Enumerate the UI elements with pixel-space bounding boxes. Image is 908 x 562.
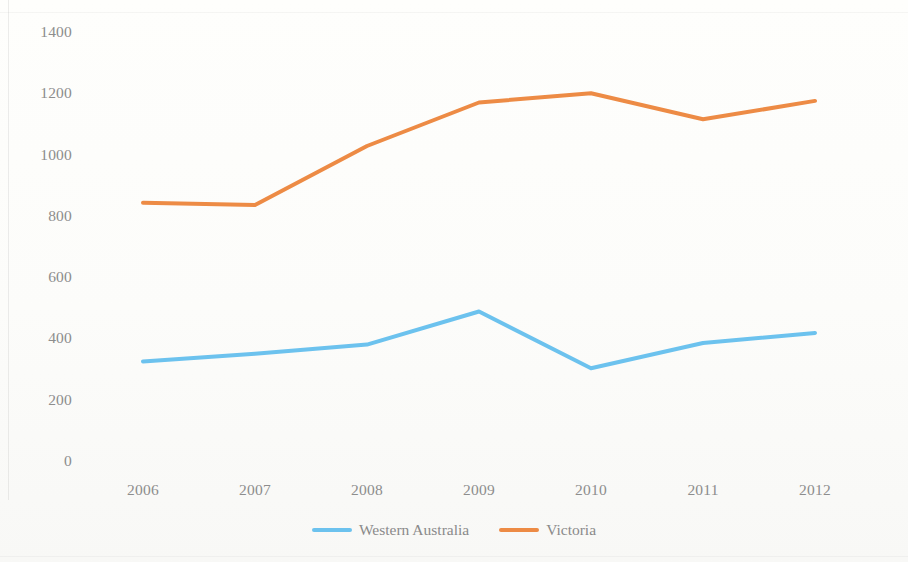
chart-legend: Western Australia Victoria xyxy=(0,521,908,539)
legend-label-western-australia: Western Australia xyxy=(359,521,469,539)
series-line-victoria xyxy=(143,93,815,205)
legend-label-victoria: Victoria xyxy=(546,521,596,539)
series-line-western-australia xyxy=(143,312,815,369)
legend-item-victoria[interactable]: Victoria xyxy=(499,521,596,539)
legend-swatch-victoria xyxy=(499,528,539,532)
legend-item-western-australia[interactable]: Western Australia xyxy=(312,521,469,539)
plot-area xyxy=(0,0,908,562)
legend-swatch-western-australia xyxy=(312,528,352,532)
line-chart: 1400 1200 1000 800 600 400 200 0 2006 20… xyxy=(0,0,908,562)
